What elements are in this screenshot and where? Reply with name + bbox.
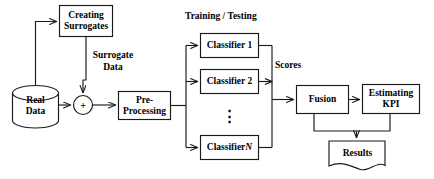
scores-annotation: Scores bbox=[275, 60, 309, 72]
classifier-2-box bbox=[201, 70, 259, 94]
diagram-vector-layer bbox=[0, 0, 434, 179]
summation-node bbox=[74, 96, 93, 115]
results-document-shape bbox=[329, 141, 385, 170]
pre-processing-box bbox=[119, 92, 171, 120]
edge-fusion-to-results bbox=[314, 114, 357, 138]
classifier-n-box bbox=[201, 136, 259, 160]
real-data-cylinder bbox=[13, 86, 59, 129]
fusion-box bbox=[297, 86, 349, 114]
creating-surrogates-box bbox=[60, 6, 113, 37]
surrogate-data-annotation: Surrogate Data bbox=[89, 50, 137, 73]
process-flow-diagram: Creating Surrogates Real Data + Pre- Pro… bbox=[0, 0, 434, 179]
training-testing-annotation: Training / Testing bbox=[185, 11, 261, 23]
edge-estimating-kpi-to-results bbox=[357, 114, 390, 132]
edge-real-data-to-creating-surrogates bbox=[36, 22, 57, 86]
edge-creating-surrogates-to-adder bbox=[83, 37, 86, 93]
classifier-1-box bbox=[201, 34, 259, 58]
estimating-kpi-box bbox=[363, 85, 420, 114]
